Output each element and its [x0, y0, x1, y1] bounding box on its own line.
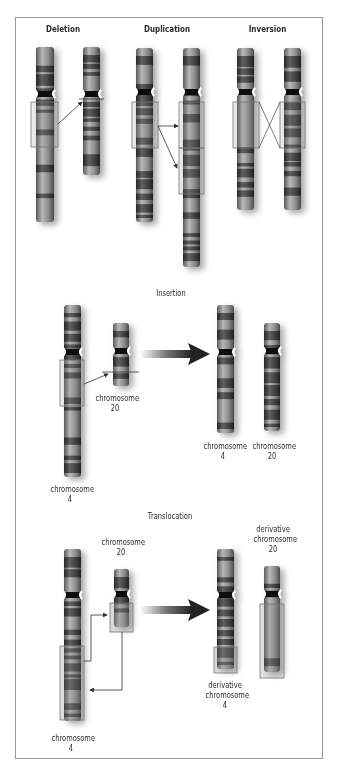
translocation-arrow-2: [90, 632, 122, 690]
insertion-arrow: [84, 374, 108, 384]
insertion-chr20-before: [112, 323, 130, 386]
insertion-chr4-after: [216, 305, 235, 433]
translocation-arrow-1: [84, 615, 107, 661]
deletion-result-chromosome: [82, 47, 101, 175]
translocation-big-arrow-icon: [140, 599, 210, 621]
chromosome-diagram: [0, 0, 337, 775]
insertion-chr20-after: [263, 323, 281, 431]
deletion-region-box: [31, 102, 58, 147]
duplication-arrow-2: [158, 126, 177, 168]
insertion-big-arrow-icon: [140, 343, 210, 365]
deletion-arrow: [58, 102, 82, 124]
